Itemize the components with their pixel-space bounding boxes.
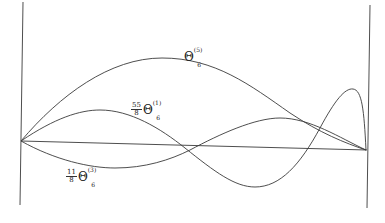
plot-canvas [0,0,385,223]
label-55-8-theta6-1: 55 8 Θ(1)6 [131,101,165,117]
left-boundary-line [20,2,23,205]
curve-theta6-3 [21,118,366,168]
label-theta6-5: Θ(5)6 [184,48,206,64]
label-11-8-theta6-3: 11 8 Θ(3)6 [66,168,100,184]
theta-symbol: Θ [143,103,153,117]
superscript: (5) [194,46,203,53]
superscript: (3) [88,166,97,173]
subscript: 6 [91,181,95,188]
superscript: (1) [153,99,162,106]
coefficient-fraction: 11 8 [66,169,77,184]
subscript: 6 [197,61,201,68]
coefficient-fraction: 55 8 [131,102,142,117]
fraction-denominator: 8 [131,110,142,117]
theta-symbol: Θ [184,50,194,64]
theta-symbol: Θ [78,170,88,184]
right-boundary-line [367,5,370,208]
subscript: 6 [156,114,160,121]
figure: Θ(5)6 55 8 Θ(1)6 11 8 Θ(3)6 [0,0,385,223]
fraction-denominator: 8 [66,177,77,184]
curve-theta6-5 [21,58,366,150]
baseline-axis [21,141,367,150]
